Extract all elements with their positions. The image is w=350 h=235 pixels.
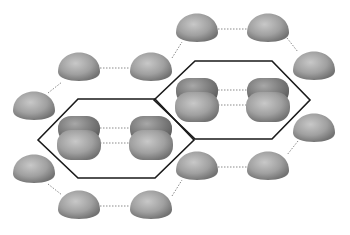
orbital-hexagon-diagram [0,0,350,235]
sphere-orbital [58,191,100,220]
sphere-orbital [293,114,335,143]
dotted-link [48,82,62,93]
lobed-orbital [129,116,173,160]
sphere-orbital [176,152,218,181]
dotted-link [287,38,298,52]
sphere-orbital [58,53,100,82]
dotted-link [48,184,62,195]
sphere-orbital [247,14,289,43]
sphere-orbital [130,191,172,220]
sphere-orbital [176,14,218,43]
sphere-orbital [247,152,289,181]
lobed-orbital [246,78,290,122]
sphere-orbital [130,53,172,82]
diagram-canvas [0,0,350,235]
lobed-orbital [57,116,101,160]
dotted-link [172,42,182,58]
sphere-orbital [13,92,55,121]
sphere-orbital [293,52,335,81]
lobed-orbital [175,78,219,122]
sphere-orbital [13,155,55,184]
dotted-link [287,141,298,155]
dotted-link [172,180,182,196]
